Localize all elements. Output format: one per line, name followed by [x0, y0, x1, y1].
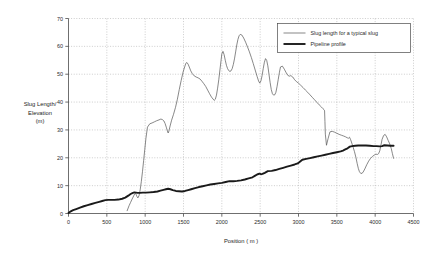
x-tick-label: 4000	[369, 219, 381, 225]
x-tick-label: 1500	[178, 219, 190, 225]
x-axis-ticks: 050010001500200025003000350040004500	[67, 214, 420, 226]
x-tick-label: 500	[102, 219, 111, 225]
y-tick-label: 50	[57, 71, 63, 77]
x-tick-label: 3000	[293, 219, 305, 225]
y-tick-label: 60	[57, 43, 63, 49]
y-axis-title: Slug Length/Elevation(m)	[24, 101, 57, 124]
x-axis-title: Position ( m )	[224, 238, 258, 244]
x-tick-label: 3500	[331, 219, 343, 225]
y-axis-title-line: Slug Length/	[24, 101, 57, 107]
data-series	[69, 34, 394, 213]
legend-label: Slug length for a typical slug	[311, 30, 378, 36]
y-tick-label: 40	[57, 99, 63, 105]
chart-container: 010203040506070 050010001500200025003000…	[0, 0, 435, 254]
legend-label: Pipeline profile	[311, 41, 346, 47]
y-axis-title-line: Elevation	[28, 110, 52, 116]
x-tick-label: 2000	[216, 219, 228, 225]
y-axis-title-line: (m)	[36, 118, 45, 124]
legend-box	[278, 24, 411, 53]
x-tick-label: 1000	[139, 219, 151, 225]
x-tick-label: 2500	[254, 219, 266, 225]
y-tick-label: 10	[57, 183, 63, 189]
chart-plot-area: 010203040506070 050010001500200025003000…	[0, 0, 435, 254]
y-tick-label: 70	[57, 16, 63, 22]
chart-legend: Slug length for a typical slugPipeline p…	[278, 24, 411, 53]
y-tick-label: 20	[57, 155, 63, 161]
series-line	[69, 145, 394, 213]
y-tick-label: 0	[60, 211, 63, 217]
y-tick-label: 30	[57, 127, 63, 133]
x-tick-label: 0	[67, 219, 70, 225]
x-tick-label: 4500	[408, 219, 420, 225]
y-axis-ticks: 010203040506070	[57, 16, 69, 217]
